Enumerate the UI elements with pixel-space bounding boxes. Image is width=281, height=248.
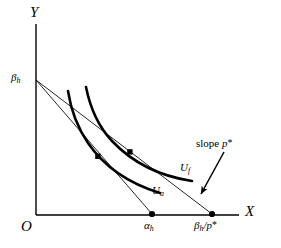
autarky-budget-line bbox=[36, 80, 152, 214]
x-axis-label: X bbox=[245, 204, 254, 219]
ua-symbol: U bbox=[152, 184, 160, 196]
slope-annotation-label: slope p* bbox=[196, 138, 232, 149]
y-intercept-subscript: h bbox=[16, 76, 20, 85]
slope-annotation-arrow bbox=[201, 152, 224, 194]
beta-over-p: /p bbox=[203, 219, 212, 231]
uf-symbol: U bbox=[180, 161, 188, 173]
y-axis-label: Y bbox=[30, 5, 38, 20]
beta-over-p-star: * bbox=[212, 219, 217, 230]
x-tick-alpha-h-label: αh bbox=[144, 220, 154, 233]
x-tick-beta-h-over-p-label: βh/p* bbox=[194, 220, 217, 233]
free-trade-budget-line bbox=[36, 80, 212, 214]
slope-word: slope bbox=[196, 137, 222, 149]
alpha-h-point bbox=[149, 211, 155, 217]
autarky-tangency-point bbox=[95, 154, 100, 159]
uf-subscript: f bbox=[188, 166, 190, 175]
origin-label: O bbox=[21, 219, 32, 234]
ua-subscript: a bbox=[160, 189, 164, 198]
free-trade-indifference-curve bbox=[86, 87, 192, 181]
free-trade-curve-label: Uf bbox=[180, 162, 190, 175]
figure-canvas bbox=[0, 0, 281, 248]
beta-h-over-p-point bbox=[209, 211, 215, 217]
slope-star: * bbox=[227, 137, 232, 148]
indifference-curve-figure: Y X O βh αh βh/p* Uf Ua slope p* bbox=[0, 0, 281, 248]
alpha-subscript: h bbox=[150, 224, 154, 233]
y-intercept-label: βh bbox=[11, 72, 20, 85]
autarky-curve-label: Ua bbox=[152, 185, 164, 198]
free-trade-tangency-point bbox=[127, 149, 132, 154]
